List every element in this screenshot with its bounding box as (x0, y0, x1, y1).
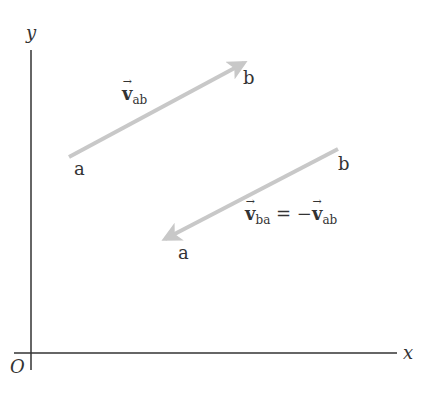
vector-ba-subscript: ba (255, 213, 270, 227)
y-axis-label: y (26, 24, 36, 42)
vector-ab-arrow (69, 63, 244, 157)
x-axis-label: x (403, 344, 413, 362)
vector-diagram: y x O vab a b vba = −vab b a (0, 0, 426, 394)
vector-ba-symbol: v (245, 205, 255, 223)
vector-ba-head-label: a (178, 244, 189, 262)
vector-ab-tail-label: a (74, 160, 85, 178)
vector-ab-label: vab (122, 85, 147, 106)
vector-ba-equals: = − (270, 203, 312, 224)
vector-ab-head-label: b (243, 69, 255, 87)
origin-label: O (10, 358, 25, 376)
diagram-graphics (0, 0, 426, 394)
vector-ba-rhs-symbol: v (312, 205, 322, 223)
vector-ab-subscript: ab (132, 93, 147, 107)
vector-ba-rhs-subscript: ab (322, 213, 337, 227)
vector-ab-symbol: v (122, 85, 132, 103)
vector-ba-tail-label: b (338, 155, 350, 173)
vector-ba-label: vba = −vab (245, 205, 337, 226)
